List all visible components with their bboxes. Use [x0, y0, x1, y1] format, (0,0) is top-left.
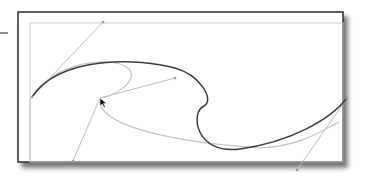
- handle-point-5[interactable]: [31, 96, 33, 98]
- handle-point-4[interactable]: [346, 97, 348, 99]
- diagram-svg: [0, 0, 384, 188]
- handle-point-3[interactable]: [296, 169, 298, 171]
- handle-point-2[interactable]: [72, 160, 74, 162]
- handle-point-1[interactable]: [174, 77, 176, 79]
- handle-point-0[interactable]: [102, 21, 104, 23]
- bezier-editor-canvas[interactable]: [0, 0, 384, 188]
